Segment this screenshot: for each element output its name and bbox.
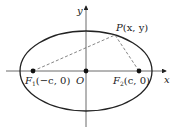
origin-label: O [76,75,84,86]
x-axis-label: x [164,74,170,85]
dashed-line-f1-p [33,35,115,71]
origin-point [84,69,89,74]
focus1-label: F1(−c, 0) [24,75,70,87]
focus2-label: F2(c, 0) [112,75,150,87]
y-axis-label: y [76,5,83,16]
focus2-point [137,69,142,74]
point-p-label: P(x, y) [115,22,148,33]
dashed-line-f2-p [115,35,139,71]
ellipse-diagram: y x O F1(−c, 0) F2(c, 0) P(x, y) [0,0,171,134]
focus1-point [31,69,36,74]
